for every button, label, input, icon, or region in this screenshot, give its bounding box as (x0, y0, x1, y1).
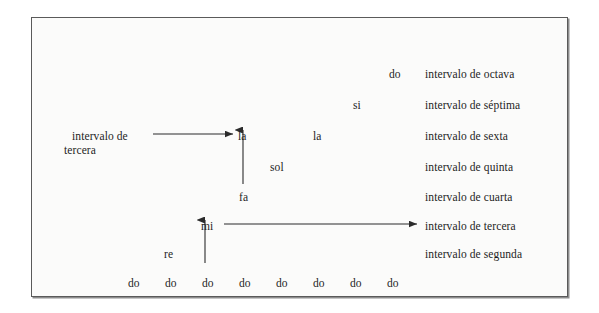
diagram-plate: intervalo de octava intervalo de séptima… (31, 17, 568, 297)
baseline-note-5: do (276, 277, 288, 290)
note-si: si (353, 99, 361, 112)
interval-label-septima: intervalo de séptima (425, 99, 520, 112)
note-do-octave: do (389, 68, 401, 81)
interval-label-sexta: intervalo de sexta (425, 130, 508, 143)
baseline-note-7: do (350, 277, 362, 290)
note-mi: mi (201, 220, 213, 233)
note-la-left: la (238, 130, 247, 143)
left-interval-label-line2: tercera (64, 143, 142, 157)
interval-label-tercera: intervalo de tercera (425, 220, 516, 233)
interval-diagram-figure: intervalo de octava intervalo de séptima… (0, 0, 599, 313)
interval-label-octava: intervalo de octava (425, 68, 514, 81)
baseline-note-6: do (313, 277, 325, 290)
note-sol: sol (270, 161, 284, 174)
interval-label-segunda: intervalo de segunda (425, 248, 522, 261)
baseline-note-3: do (202, 277, 214, 290)
note-re: re (164, 248, 173, 261)
interval-label-quinta: intervalo de quinta (425, 161, 513, 174)
left-interval-label: intervalo de tercera (64, 129, 142, 157)
baseline-note-8: do (387, 277, 399, 290)
note-la-right: la (313, 130, 322, 143)
left-interval-label-line1: intervalo de (64, 129, 142, 143)
baseline-note-2: do (165, 277, 177, 290)
interval-label-cuarta: intervalo de cuarta (425, 191, 512, 204)
note-fa: fa (239, 191, 248, 204)
baseline-note-1: do (128, 277, 140, 290)
baseline-note-4: do (239, 277, 251, 290)
